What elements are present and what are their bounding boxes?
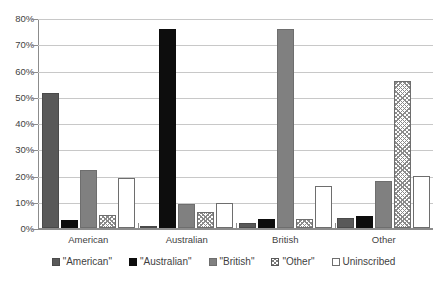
y-axis-tick-mark <box>32 229 38 230</box>
y-axis-tick-mark <box>32 177 38 178</box>
bar <box>394 81 411 228</box>
y-axis-tick-label: 60% <box>0 67 34 77</box>
bar <box>140 226 157 228</box>
x-axis-labels: AmericanAustralianBritishOther <box>39 234 433 245</box>
x-axis-category-label: British <box>236 234 335 245</box>
bar <box>178 204 195 228</box>
gridline <box>38 229 433 230</box>
bar <box>337 218 354 229</box>
bar <box>277 29 294 229</box>
y-axis-tick-mark <box>32 45 38 46</box>
y-axis-tick-label: 40% <box>0 119 34 129</box>
y-axis-tick-label: 50% <box>0 93 34 103</box>
bar-group <box>39 19 138 228</box>
y-axis-tick-mark <box>32 203 38 204</box>
y-axis-tick-mark <box>32 19 38 20</box>
legend-label: "British" <box>220 256 255 267</box>
x-axis-category-label: American <box>39 234 138 245</box>
legend-item[interactable]: "American" <box>52 256 112 267</box>
bar <box>42 93 59 228</box>
legend-swatch-icon <box>209 258 217 266</box>
y-axis-tick-mark <box>32 72 38 73</box>
bar <box>239 223 256 228</box>
x-axis-category-label: Other <box>335 234 434 245</box>
bar <box>197 212 214 228</box>
y-axis-tick-label: 0% <box>0 224 34 234</box>
bar <box>413 176 430 229</box>
y-axis-tick-mark <box>32 124 38 125</box>
legend-swatch-icon <box>332 258 340 266</box>
y-axis-tick-mark <box>32 98 38 99</box>
bar <box>159 29 176 229</box>
bar-chart: 80%70%60%50%40%30%20%10%0% AmericanAustr… <box>0 0 447 286</box>
bar-group <box>335 19 434 228</box>
y-axis-tick-mark <box>32 150 38 151</box>
bar <box>296 219 313 228</box>
bar <box>99 215 116 228</box>
y-axis-tick-label: 10% <box>0 198 34 208</box>
bar <box>80 170 97 228</box>
legend-swatch-icon <box>129 258 137 266</box>
bar-group <box>138 19 237 228</box>
legend-swatch-icon <box>52 258 60 266</box>
bar <box>315 186 332 228</box>
legend-item[interactable]: "Australian" <box>129 256 192 267</box>
y-axis-tick-label: 80% <box>0 14 34 24</box>
bar <box>258 219 275 228</box>
bar <box>61 220 78 228</box>
y-axis-tick-label: 20% <box>0 172 34 182</box>
legend-label: Uninscribed <box>343 256 396 267</box>
y-axis-tick-label: 30% <box>0 145 34 155</box>
bar <box>118 178 135 228</box>
bar <box>375 181 392 228</box>
legend-label: "Other" <box>282 256 314 267</box>
x-axis-category-label: Australian <box>138 234 237 245</box>
bar <box>216 203 233 228</box>
plot-frame <box>38 19 433 229</box>
legend-label: "Australian" <box>140 256 192 267</box>
legend-item[interactable]: "British" <box>209 256 255 267</box>
y-axis-tick-label: 70% <box>0 40 34 50</box>
bar <box>356 216 373 228</box>
bar-groups <box>39 19 433 228</box>
legend-label: "American" <box>63 256 112 267</box>
legend-item[interactable]: "Other" <box>271 256 314 267</box>
legend-item[interactable]: Uninscribed <box>332 256 396 267</box>
bar-group <box>236 19 335 228</box>
legend-swatch-icon <box>271 258 279 266</box>
chart-legend: "American""Australian""British""Other"Un… <box>0 256 447 267</box>
